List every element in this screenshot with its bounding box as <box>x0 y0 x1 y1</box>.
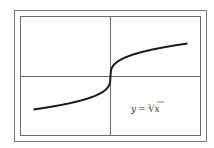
equation-label: y=3√x <box>130 103 160 114</box>
cube-root-chart: y=3√x <box>0 0 214 148</box>
